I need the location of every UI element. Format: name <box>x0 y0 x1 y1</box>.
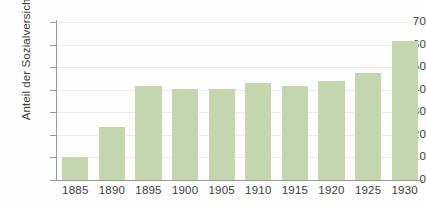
x-tick-label: 1885 <box>57 184 94 196</box>
plot-area <box>57 22 423 180</box>
x-tick-label: 1890 <box>94 184 131 196</box>
x-tick-label: 1895 <box>130 184 167 196</box>
x-tick-label: 1905 <box>203 184 240 196</box>
bar <box>392 41 418 180</box>
x-axis-line <box>56 180 423 181</box>
y-axis-title: Anteil der Sozialversicherten <box>20 0 32 134</box>
bar <box>172 89 198 180</box>
bar <box>245 83 271 180</box>
x-tick-label: 1900 <box>167 184 204 196</box>
x-tick-label: 1930 <box>386 184 423 196</box>
x-tick-label: 1920 <box>313 184 350 196</box>
x-tick-label: 1910 <box>240 184 277 196</box>
bar <box>318 81 344 180</box>
bar <box>62 157 88 180</box>
bar <box>355 73 381 180</box>
cropped-title-remnant <box>20 0 350 3</box>
bar <box>282 86 308 180</box>
bar <box>209 89 235 180</box>
x-tick-label: 1925 <box>350 184 387 196</box>
bar <box>99 127 125 180</box>
x-tick-label: 1915 <box>277 184 314 196</box>
bar <box>135 86 161 180</box>
bar-chart-figure: Anteil der Sozialversicherten 0102030405… <box>0 0 426 205</box>
